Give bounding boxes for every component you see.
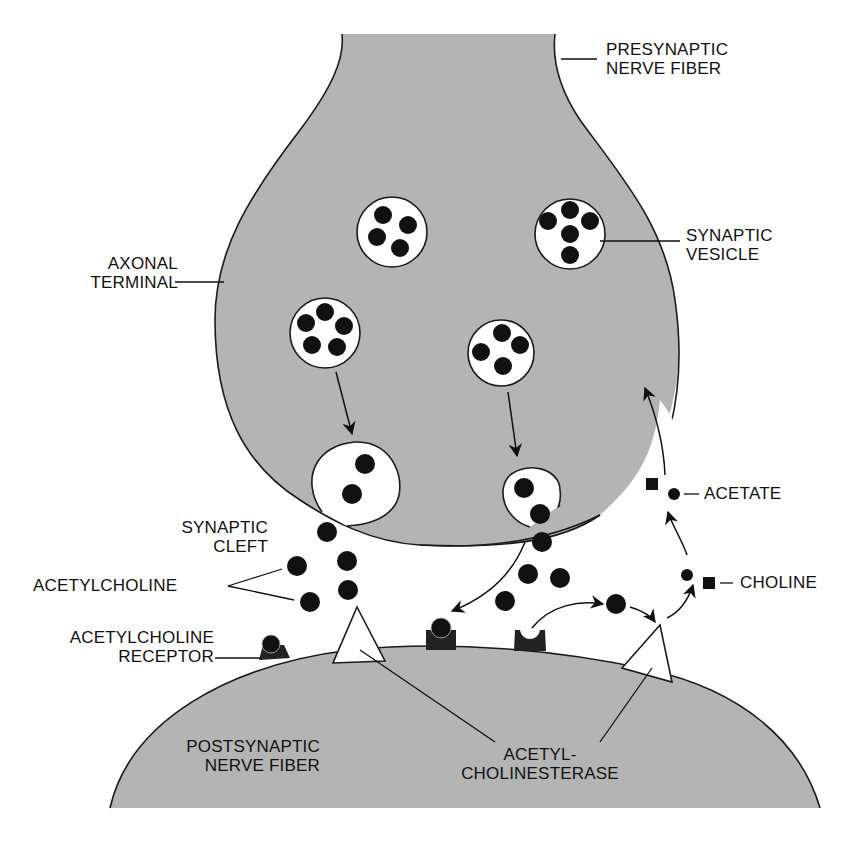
ach-receptor [426,618,456,650]
label-choline: CHOLINE [740,573,817,592]
label-acetate: ACETATE [704,484,781,503]
synaptic-vesicle [535,199,605,269]
label-presynaptic: PRESYNAPTICNERVE FIBER [606,40,728,78]
synaptic-vesicle [290,298,360,368]
label-acetylcholinesterase: ACETYL-CHOLINESTERASE [440,745,640,783]
synapse-diagram [0,0,868,845]
label-synaptic-cleft: SYNAPTICCLEFT [120,518,268,556]
fusing-vesicle [312,442,400,526]
label-axonal-terminal: AXONALTERMINAL [60,254,178,292]
ach-receptor [259,635,290,660]
label-synaptic-vesicle: SYNAPTICVESICLE [686,226,773,264]
postsynaptic-fiber [110,646,820,808]
label-postsynaptic: POSTSYNAPTICNERVE FIBER [130,737,320,775]
acetylcholinesterase [333,607,385,663]
ach-receptor-empty [514,630,546,651]
label-ach-receptor: ACETYLCHOLINERECEPTOR [20,628,214,666]
synaptic-vesicle [468,320,534,386]
axonal-terminal [215,34,679,546]
label-acetylcholine: ACETYLCHOLINE [33,576,177,595]
synaptic-vesicle [357,197,427,267]
